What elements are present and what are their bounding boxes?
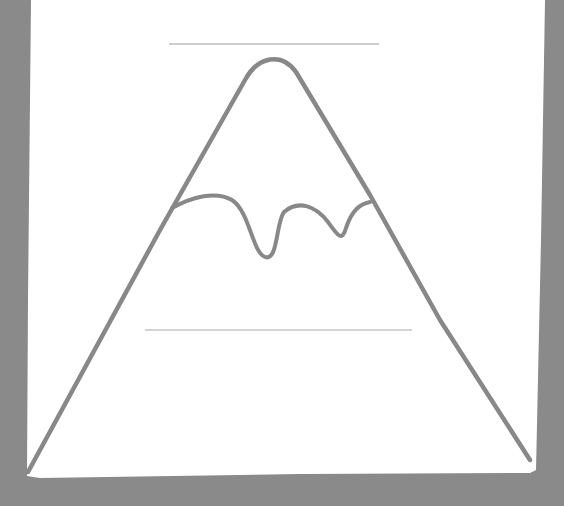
mountain-illustration bbox=[0, 0, 564, 506]
paper-sheet bbox=[27, 0, 545, 478]
